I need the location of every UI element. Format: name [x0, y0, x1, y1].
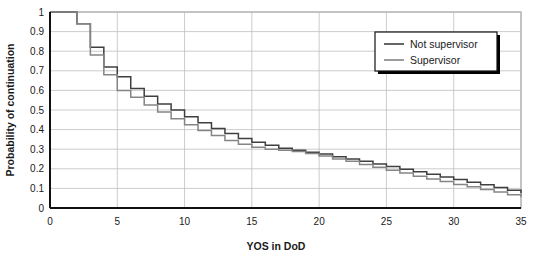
- y-tick-label-9: 0.9: [30, 26, 44, 37]
- y-tick-label-10: 1: [38, 7, 44, 18]
- y-tick-label-0: 0: [38, 203, 44, 214]
- x-tick-label-6: 30: [448, 216, 460, 227]
- y-tick-label-5: 0.5: [30, 105, 44, 116]
- legend-label-supervisor: Supervisor: [410, 54, 461, 66]
- y-tick-label-2: 0.2: [30, 163, 44, 174]
- chart-figure: 00.10.20.30.40.50.60.70.80.91 0510152025…: [0, 0, 537, 260]
- y-tick-label-1: 0.1: [30, 183, 44, 194]
- x-tick-label-4: 20: [314, 216, 326, 227]
- y-tick-label-3: 0.3: [30, 144, 44, 155]
- x-tick-label-5: 25: [381, 216, 393, 227]
- y-tick-label-4: 0.4: [30, 124, 44, 135]
- continuation-probability-chart: 00.10.20.30.40.50.60.70.80.91 0510152025…: [0, 0, 537, 260]
- legend-label-not-supervisor: Not supervisor: [410, 38, 478, 50]
- x-tick-label-7: 35: [515, 216, 527, 227]
- y-tick-label-7: 0.7: [30, 65, 44, 76]
- x-tick-label-1: 5: [115, 216, 121, 227]
- x-axis-title: YOS in DoD: [247, 240, 306, 252]
- y-tick-label-6: 0.6: [30, 85, 44, 96]
- x-tick-label-0: 0: [47, 216, 53, 227]
- y-axis-title: Probability of continuation: [4, 44, 16, 177]
- x-tick-label-3: 15: [246, 216, 258, 227]
- x-tick-label-2: 10: [179, 216, 191, 227]
- y-tick-label-8: 0.8: [30, 46, 44, 57]
- chart-legend: Not supervisor Supervisor: [375, 32, 500, 74]
